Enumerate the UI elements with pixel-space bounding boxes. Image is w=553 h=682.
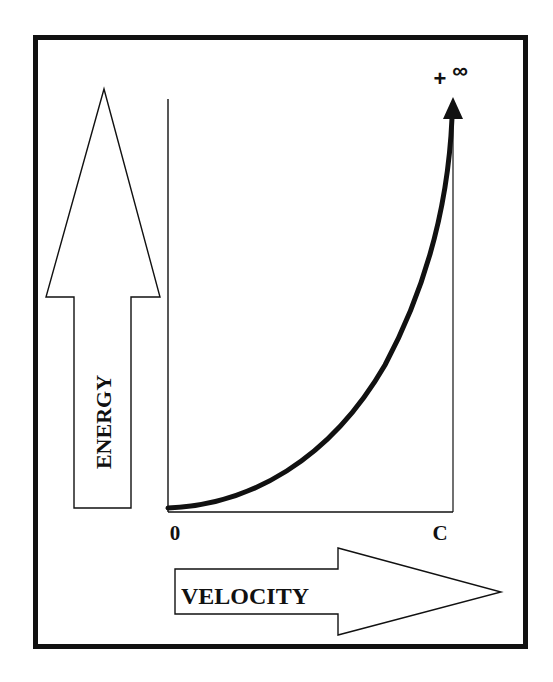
infinity-symbol-label: ∞ <box>452 58 468 83</box>
x-tick-c: C <box>432 521 447 545</box>
energy-curve <box>168 118 452 508</box>
velocity-arrow: VELOCITY <box>175 548 501 635</box>
velocity-label: VELOCITY <box>181 583 309 609</box>
energy-velocity-diagram: ENERGY + ∞ 0 C VELOCITY <box>0 0 553 682</box>
energy-arrow: ENERGY <box>46 89 160 508</box>
infinity-sign-label: + <box>434 66 447 91</box>
curve-arrowhead-icon <box>443 97 463 119</box>
energy-label: ENERGY <box>91 375 116 469</box>
x-tick-zero: 0 <box>170 521 181 545</box>
